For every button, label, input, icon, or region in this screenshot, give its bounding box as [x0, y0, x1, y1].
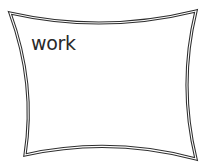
frame-label-text: work [31, 32, 76, 54]
canvas: work [0, 0, 209, 168]
concave-frame-shape [0, 0, 209, 168]
